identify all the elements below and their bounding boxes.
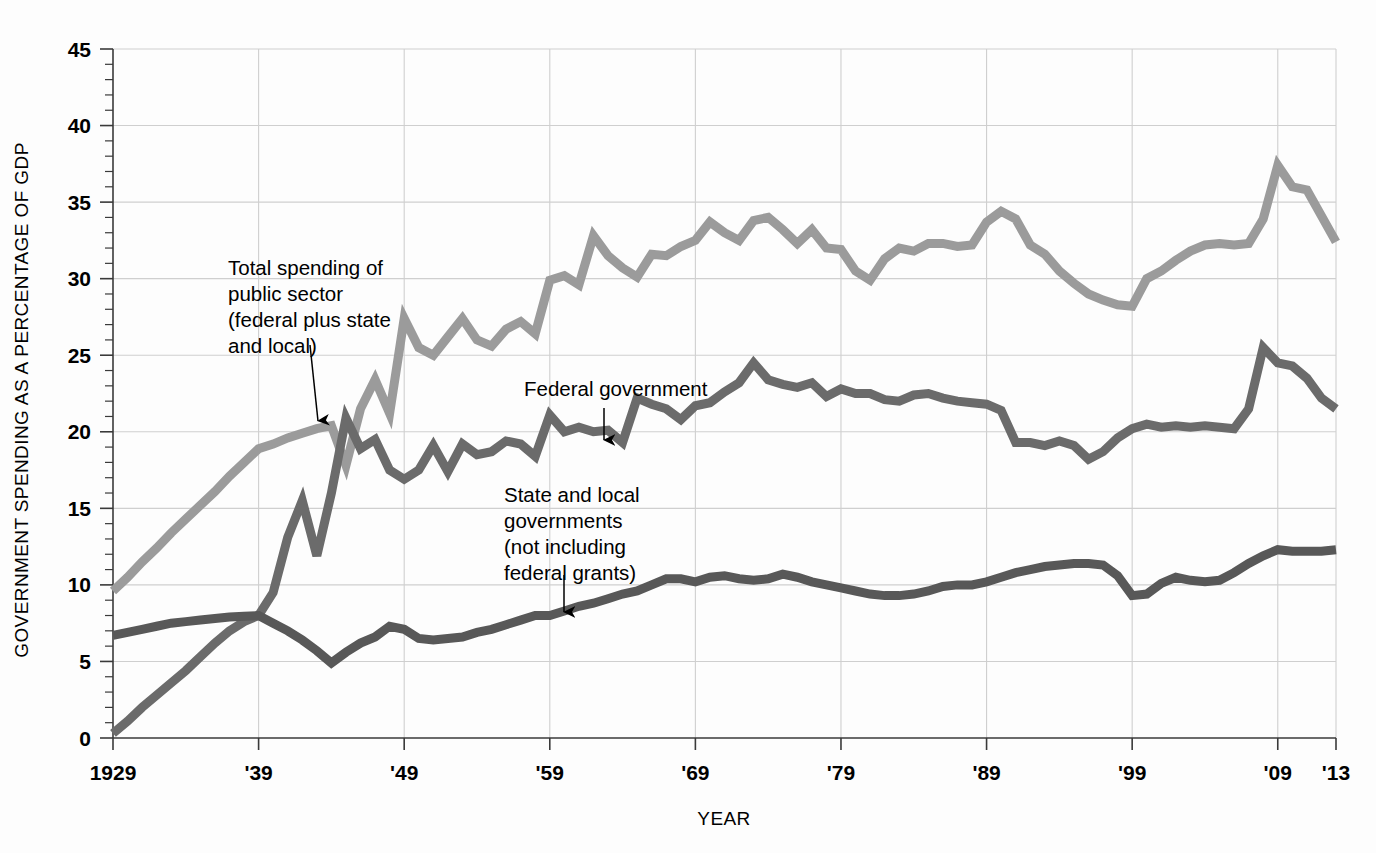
y-tick-label: 25 (68, 344, 92, 367)
series-line-state-local (113, 550, 1336, 663)
series-line-federal (113, 348, 1336, 734)
x-tick-label: '13 (1322, 761, 1350, 784)
x-tick-label: '49 (390, 761, 418, 784)
x-tick-label: '09 (1264, 761, 1292, 784)
data-series-group (113, 165, 1336, 733)
total-annotation: Total spending ofpublic sector(federal p… (228, 256, 391, 357)
x-tick-label: '69 (681, 761, 709, 784)
x-axis-title: YEAR (697, 808, 750, 829)
x-tick-label: '79 (827, 761, 855, 784)
federal-annotation: Federal government (524, 377, 708, 400)
x-tick-label: '89 (972, 761, 1000, 784)
x-tick-label: '59 (536, 761, 564, 784)
line-chart-svg: 051015202530354045 1929'39'49'59'69'79'8… (0, 0, 1376, 853)
y-tick-label: 45 (68, 38, 92, 61)
y-tick-label: 40 (68, 114, 91, 137)
x-tick-labels: 1929'39'49'59'69'79'89'99'09'13 (90, 761, 1351, 784)
y-tick-label: 0 (79, 727, 91, 750)
y-tick-label: 35 (68, 191, 92, 214)
chart-figure: 051015202530354045 1929'39'49'59'69'79'8… (0, 0, 1376, 853)
x-tick-label: '39 (244, 761, 272, 784)
x-tick-label: '99 (1118, 761, 1146, 784)
y-tick-label: 10 (68, 573, 91, 596)
y-tick-label: 5 (79, 650, 91, 673)
state-local-annotation: State and localgovernments(not including… (504, 483, 640, 584)
y-tick-label: 20 (68, 420, 91, 443)
y-tick-label: 15 (68, 497, 92, 520)
x-tick-label: 1929 (90, 761, 137, 784)
y-tick-labels: 051015202530354045 (68, 38, 92, 750)
y-axis-title: GOVERNMENT SPENDING AS A PERCENTAGE OF G… (11, 142, 32, 657)
y-tick-label: 30 (68, 267, 91, 290)
